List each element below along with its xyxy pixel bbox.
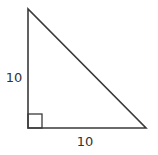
right-triangle: [28, 9, 146, 128]
vertical-leg-label: 10: [6, 70, 23, 85]
right-angle-marker: [28, 114, 42, 128]
horizontal-leg-label: 10: [77, 134, 94, 149]
triangle-diagram: 10 10: [0, 0, 158, 155]
